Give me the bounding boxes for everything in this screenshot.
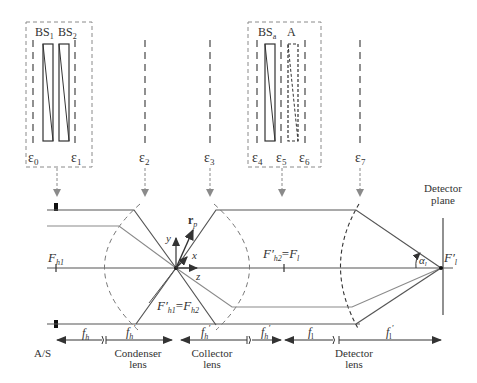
plane-epsilon-3: ε3	[204, 40, 215, 193]
bsa-label: BSa	[258, 25, 277, 41]
detector-lens	[341, 204, 360, 330]
epsilon-1-label: ε1	[71, 150, 81, 167]
bs1-diagonal	[43, 44, 53, 141]
ray-detector-lower	[356, 268, 441, 324]
epsilon-6-label: ε6	[299, 150, 310, 167]
beam-splitter-module-right: BSa A ε4 ε5 ε6	[248, 22, 321, 193]
plane-epsilon-2: ε2	[139, 40, 149, 193]
fhp-label-2: fh′	[201, 323, 211, 341]
condenser-lens	[104, 204, 140, 330]
break-mark	[249, 336, 251, 344]
analyzer-label: A	[287, 25, 296, 39]
plane-epsilon-7: ε7	[355, 40, 366, 193]
detector-plane-label-2: plane	[431, 194, 455, 206]
fh2p-equals-fl-label: F′h2=Fl	[262, 246, 300, 263]
y-axis-label: y	[165, 232, 171, 244]
detector-lens-label-2: lens	[345, 358, 363, 370]
bs2-label: BS2	[58, 25, 77, 41]
epsilon-0-label: ε0	[28, 150, 39, 167]
rp-label: rp	[188, 213, 197, 229]
collector-lens	[214, 204, 250, 330]
coordinate-axes: y x z rp	[165, 213, 201, 282]
as-label: A/S	[34, 347, 51, 359]
analyzer-diagonal	[288, 44, 298, 141]
epsilon-5-label: ε5	[276, 150, 287, 167]
detector-plane-label-1: Detector	[424, 182, 462, 194]
fhp-label-3: fh′	[261, 323, 271, 341]
module-box	[248, 22, 321, 167]
bs1-label: BS1	[35, 25, 54, 41]
rp-vector-arrow	[176, 230, 193, 268]
fl-label: fl	[308, 325, 314, 341]
ray-inner	[47, 226, 441, 307]
focal-length-dimensions: fh fh′ fh′ fh′ fl fl′	[57, 323, 441, 344]
z-axis-label: z	[195, 270, 201, 282]
x-axis-label: x	[191, 249, 197, 261]
break-mark	[333, 336, 335, 344]
fhp-label-1: fh′	[126, 323, 136, 341]
bs2-diagonal	[59, 44, 69, 141]
fh1p-equals-fh2-label: F′h1=Fh2	[156, 298, 199, 315]
beam-splitter-module-left: BS1 BS2 ε0 ε1	[26, 22, 92, 193]
condenser-lens-label-2: lens	[129, 358, 147, 370]
epsilon-4-label: ε4	[252, 150, 263, 167]
optical-diagram: BS1 BS2 ε0 ε1 ε2 ε3 ε7 BSa A ε4 ε5 ε6	[0, 0, 477, 383]
x-axis-arrow	[176, 257, 187, 268]
fh-label: fh	[82, 326, 89, 342]
bsa-diagonal	[265, 44, 275, 141]
alpha-label: αl	[419, 254, 427, 268]
flp-label: F′l	[443, 250, 458, 267]
collector-lens-label-2: lens	[203, 358, 221, 370]
focal-point-flp	[439, 266, 443, 270]
epsilon-7-label: ε7	[355, 150, 366, 167]
optical-path	[47, 203, 453, 330]
fh1-label: Fh1	[47, 250, 64, 267]
epsilon-2-label: ε2	[139, 150, 149, 167]
epsilon-3-label: ε3	[204, 150, 215, 167]
break-mark	[102, 336, 104, 344]
flp-dim-label: fl′	[386, 323, 395, 341]
